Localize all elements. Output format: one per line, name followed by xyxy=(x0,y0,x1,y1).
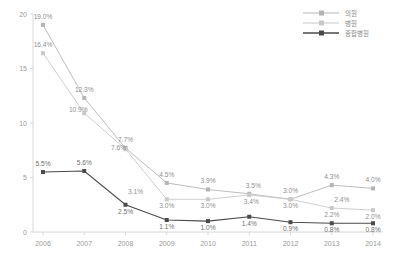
data-point-marker[interactable] xyxy=(206,219,210,223)
data-point-marker[interactable] xyxy=(165,218,169,222)
y-tick-label: 0 xyxy=(23,229,27,236)
data-point-marker[interactable] xyxy=(371,208,375,212)
data-point-marker[interactable] xyxy=(165,197,169,201)
data-point-marker[interactable] xyxy=(41,23,45,27)
data-label: 3.0% xyxy=(283,187,298,194)
x-tick-label: 2014 xyxy=(365,240,381,247)
data-label: 19.0% xyxy=(34,13,53,20)
data-point-marker[interactable] xyxy=(41,170,45,174)
data-point-marker[interactable] xyxy=(41,51,45,55)
data-label: 7.7% xyxy=(118,136,133,143)
data-point-marker[interactable] xyxy=(82,96,86,100)
data-label: 4.0% xyxy=(365,176,380,183)
data-label: 3.5% xyxy=(246,182,261,189)
data-label: 3.0% xyxy=(200,202,215,209)
data-label: 3.4% xyxy=(244,198,259,205)
data-point-marker[interactable] xyxy=(371,221,375,225)
data-label: 1.1% xyxy=(159,223,174,230)
data-label: 10.9% xyxy=(69,106,88,113)
data-point-marker[interactable] xyxy=(124,203,128,207)
legend-marker-3 xyxy=(319,31,324,36)
x-tick-label: 2013 xyxy=(324,240,340,247)
chart-canvas: 0510152020062007200820092010201120122013… xyxy=(0,0,394,258)
y-tick-label: 20 xyxy=(19,11,27,18)
data-annotation: 3.1% xyxy=(128,188,143,195)
data-point-marker[interactable] xyxy=(371,186,375,190)
data-point-marker[interactable] xyxy=(82,169,86,173)
data-point-marker[interactable] xyxy=(330,183,334,187)
data-label: 3.0% xyxy=(283,202,298,209)
chart-legend: 의원병원종합병원 xyxy=(303,9,369,37)
data-label: 16.4% xyxy=(34,41,53,48)
data-point-marker[interactable] xyxy=(206,187,210,191)
y-tick-label: 15 xyxy=(19,65,27,72)
legend-label-1[interactable]: 의원 xyxy=(345,9,357,18)
data-label: 1.0% xyxy=(200,224,215,231)
y-tick-label: 5 xyxy=(23,174,27,181)
data-annotation: 2.4% xyxy=(334,196,349,203)
data-label: 3.0% xyxy=(159,202,174,209)
data-label: 7.6% xyxy=(111,144,126,151)
data-label: 2.0% xyxy=(365,213,380,220)
legend-label-2[interactable]: 병원 xyxy=(345,19,357,27)
data-label: 5.5% xyxy=(35,160,50,167)
data-point-marker[interactable] xyxy=(206,197,210,201)
data-label: 0.8% xyxy=(324,226,339,233)
data-label: 1.4% xyxy=(242,220,257,227)
x-tick-label: 2007 xyxy=(76,240,92,247)
data-label: 5.6% xyxy=(77,159,92,166)
data-label: 0.8% xyxy=(365,226,380,233)
data-point-marker[interactable] xyxy=(330,206,334,210)
x-tick-label: 2009 xyxy=(159,240,175,247)
data-label: 2.5% xyxy=(118,208,133,215)
legend-marker-2 xyxy=(319,21,324,26)
data-label: 12.3% xyxy=(75,86,94,93)
data-point-marker[interactable] xyxy=(247,193,251,197)
x-tick-label: 2008 xyxy=(118,240,134,247)
x-tick-label: 2011 xyxy=(242,240,257,247)
x-tick-label: 2012 xyxy=(283,240,299,247)
data-label: 2.2% xyxy=(324,211,339,218)
series-line xyxy=(43,53,373,210)
legend-marker-1 xyxy=(319,11,324,16)
x-tick-label: 2006 xyxy=(35,240,51,247)
data-label: 3.9% xyxy=(200,177,215,184)
line-chart: 0510152020062007200820092010201120122013… xyxy=(0,0,394,258)
data-point-marker[interactable] xyxy=(330,221,334,225)
data-label: 4.5% xyxy=(159,171,174,178)
x-tick-label: 2010 xyxy=(200,240,216,247)
data-point-marker[interactable] xyxy=(289,197,293,201)
legend-label-3[interactable]: 종합병원 xyxy=(345,29,369,37)
y-tick-label: 10 xyxy=(19,120,27,127)
data-point-marker[interactable] xyxy=(289,220,293,224)
data-point-marker[interactable] xyxy=(165,181,169,185)
data-point-marker[interactable] xyxy=(247,215,251,219)
data-label: 0.9% xyxy=(283,225,298,232)
data-label: 4.3% xyxy=(324,173,339,180)
